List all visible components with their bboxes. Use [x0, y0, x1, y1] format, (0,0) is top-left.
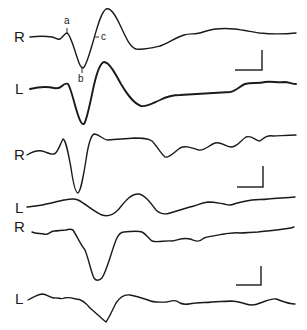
peak-label-a: a: [64, 16, 70, 26]
trace-6-label: L: [15, 291, 23, 306]
trace-4-left: [27, 194, 295, 216]
trace-3-label: R: [14, 147, 25, 162]
peak-label-c: c: [101, 32, 106, 42]
scale-bar-1: [235, 50, 262, 70]
trace-3-right: [27, 134, 296, 193]
trace-5-label: R: [14, 219, 25, 234]
trace-2-label: L: [15, 81, 23, 96]
waveform-figure: [0, 0, 307, 330]
scale-bar-2: [237, 166, 263, 187]
scale-bar-3: [236, 266, 261, 285]
peak-label-b: b: [78, 74, 84, 84]
trace-6-left: [28, 294, 295, 322]
trace-5-right: [32, 227, 294, 280]
scale-bars: [235, 50, 263, 285]
trace-2-left: [30, 62, 296, 124]
peak-markers: [67, 28, 99, 73]
trace-1-label: R: [14, 29, 25, 44]
trace-4-label: L: [15, 200, 23, 215]
traces: [27, 9, 296, 322]
